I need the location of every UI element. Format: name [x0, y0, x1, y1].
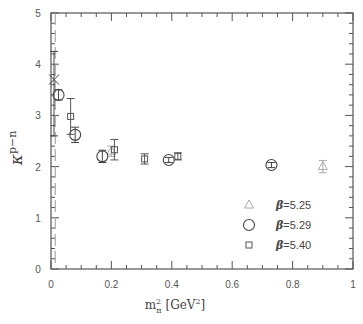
data-points — [49, 51, 327, 172]
x-tick-label: 1 — [350, 279, 356, 290]
y-tick-label: 4 — [35, 59, 41, 70]
legend-label: β=5.40 — [275, 239, 311, 252]
svg-text:κp−n: κp−n — [6, 131, 26, 167]
legend-label: β=5.29 — [275, 219, 311, 232]
x-axis-label: m2π[GeV2] — [145, 297, 206, 315]
series-triangle — [107, 146, 327, 173]
x-tick-label: 0.6 — [225, 279, 239, 290]
x-tick-label: 0.4 — [165, 279, 179, 290]
y-tick-label: 0 — [35, 264, 41, 275]
y-axis-label: κp−n — [6, 131, 26, 167]
series-circle — [53, 89, 277, 170]
x-tick-label: 0.2 — [104, 279, 118, 290]
series-square — [67, 99, 182, 165]
x-tick-label: 0.8 — [286, 279, 300, 290]
y-tick-label: 2 — [35, 162, 41, 173]
legend: β=5.25β=5.29β=5.40 — [244, 199, 312, 252]
legend-label: β=5.25 — [275, 199, 311, 212]
chart-figure: 00.20.40.60.81012345 β=5.25β=5.29β=5.40 … — [0, 0, 363, 324]
y-tick-label: 5 — [35, 8, 41, 19]
y-tick-label: 1 — [35, 213, 41, 224]
y-tick-label: 3 — [35, 110, 41, 121]
x-tick-label: 0 — [48, 279, 54, 290]
